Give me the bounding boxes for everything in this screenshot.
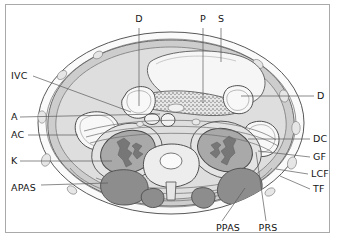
spinal-canal [160, 153, 182, 169]
label-k: K [11, 156, 17, 166]
label-ivc: IVC [11, 71, 28, 81]
label-d-top: D [135, 14, 143, 24]
label-dc: DC [313, 134, 327, 144]
figure-container: D P S IVC A AC K APAS D DC GF LCF TF PPA… [0, 0, 337, 246]
label-apas: APAS [11, 183, 36, 193]
leader-TF [280, 176, 310, 189]
label-s: S [218, 14, 224, 24]
label-ac: AC [11, 130, 24, 140]
label-a: A [11, 112, 18, 122]
label-ppas: PPAS [216, 223, 240, 233]
label-tf: TF [313, 184, 325, 194]
label-gf: GF [313, 152, 326, 162]
label-prs: PRS [259, 223, 278, 233]
label-p: P [200, 14, 206, 24]
label-d-right: D [317, 91, 325, 101]
anatomy-illustration [0, 0, 337, 246]
inferior-vena-cava [145, 114, 160, 125]
spinous-process [166, 182, 176, 200]
label-lcf: LCF [311, 169, 329, 179]
